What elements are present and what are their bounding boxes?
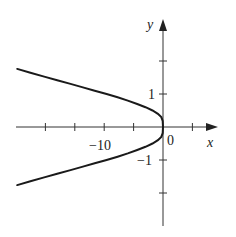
origin-label: 0: [167, 133, 174, 148]
x-axis-arrow-icon: [206, 123, 218, 131]
x-axis-label: x: [206, 135, 214, 150]
y-tick-label-1: 1: [148, 87, 155, 102]
y-axis-label: y: [145, 17, 154, 32]
x-tick-label-minus10: −10: [89, 138, 111, 153]
y-tick-label-minus1: −1: [137, 153, 152, 168]
parabola-curve: [17, 69, 163, 127]
parabola-chart: y x 0 −10 1 −1: [0, 0, 236, 237]
y-axis-arrow-icon: [159, 19, 167, 31]
